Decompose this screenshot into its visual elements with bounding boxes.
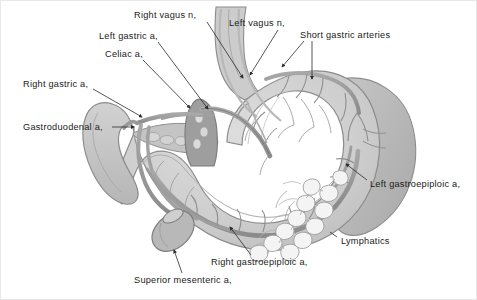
label-right-vagus-n: Right vagus n, [134, 10, 196, 21]
label-gastroduodenal-a: Gastroduodenal a, [23, 122, 103, 133]
leader-left-vagus-n [250, 30, 278, 75]
superior-mesenteric-artery [152, 206, 194, 251]
label-left-vagus-n: Left vagus n, [229, 18, 285, 29]
label-celiac-a: Celiac a, [105, 49, 143, 60]
label-left-gastric-a: Left gastric a, [99, 31, 158, 42]
anatomy-illustration [1, 1, 477, 300]
leader-short-gastric-arteries-b [282, 41, 304, 67]
label-right-gastric-a: Right gastric a, [23, 79, 88, 90]
leader-superior-mesenteric-a [174, 250, 182, 273]
label-short-gastric-arteries: Short gastric arteries [300, 30, 390, 41]
label-right-gastroepiploic-a: Right gastroepiploic a, [211, 257, 308, 268]
leader-celiac-a [143, 60, 190, 108]
anatomy-figure: Right vagus n, Left vagus n, Short gastr… [0, 0, 477, 300]
leader-left-gastric-a [158, 42, 208, 109]
label-lymphatics: Lymphatics [341, 236, 390, 247]
label-superior-mesenteric-a: Superior mesenteric a, [134, 275, 232, 286]
label-left-gastroepiploic-a: Left gastroepiploic a, [370, 179, 460, 190]
